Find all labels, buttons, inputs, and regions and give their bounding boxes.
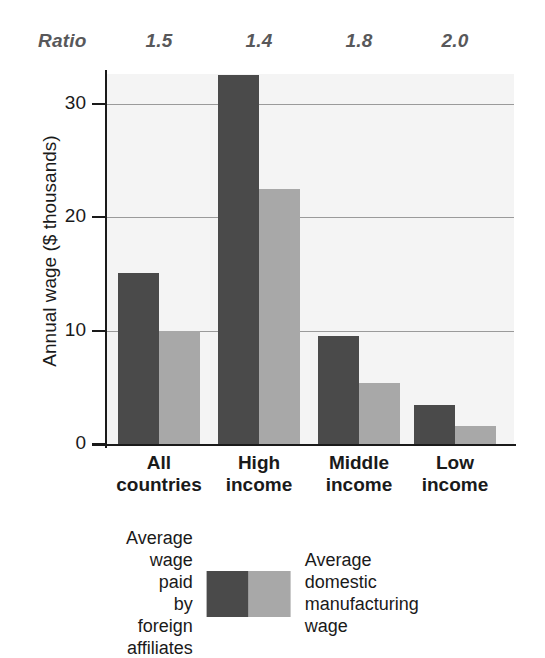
y-tick-label-20: 20	[26, 205, 86, 227]
bars-layer	[106, 74, 514, 444]
bar-middle-income-foreign-affiliates	[318, 336, 359, 444]
legend-swatch-light	[249, 571, 291, 617]
legend-label-domestic-manufacturing: Average domestic manufacturing wage	[305, 550, 419, 638]
bar-all-countries-domestic-manufacturing	[159, 331, 200, 444]
y-tick-label-10: 10	[26, 319, 86, 341]
legend-label-foreign-affiliates: Average wage paid by foreign affiliates	[126, 528, 193, 658]
ratio-value-middle-income: 1.8	[309, 30, 409, 52]
ratio-row: Ratio 1.5 1.4 1.8 2.0	[0, 30, 545, 56]
x-axis-line	[92, 444, 516, 446]
bar-high-income-domestic-manufacturing	[259, 189, 300, 444]
ratio-value-low-income: 2.0	[405, 30, 505, 52]
y-tick-mark-30	[92, 103, 106, 105]
legend-inner: Average wage paid by foreign affiliates …	[126, 528, 419, 658]
ratio-value-all-countries: 1.5	[109, 30, 209, 52]
bar-low-income-foreign-affiliates	[414, 405, 455, 444]
legend-swatch-dark	[207, 571, 249, 617]
bar-low-income-domestic-manufacturing	[455, 426, 496, 444]
y-tick-label-30: 30	[26, 92, 86, 114]
bar-middle-income-domestic-manufacturing	[359, 383, 400, 444]
bar-all-countries-foreign-affiliates	[118, 273, 159, 444]
legend: Average wage paid by foreign affiliates …	[0, 528, 545, 590]
legend-swatch	[207, 571, 291, 617]
bar-high-income-foreign-affiliates	[218, 75, 259, 444]
ratio-value-high-income: 1.4	[209, 30, 309, 52]
y-tick-mark-20	[92, 216, 106, 218]
y-tick-mark-10	[92, 330, 106, 332]
y-tick-label-0: 0	[26, 432, 86, 454]
x-category-label-low-income: Low income	[375, 452, 535, 497]
